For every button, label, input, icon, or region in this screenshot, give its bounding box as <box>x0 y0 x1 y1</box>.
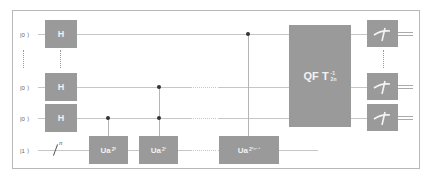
control-line-u2 <box>248 34 249 136</box>
control-dot-u1-b <box>157 116 161 120</box>
meter-icon <box>372 26 394 42</box>
u-gate-base-0: Ua <box>100 146 110 155</box>
qubit-label-1: |0 ⟩ <box>20 84 29 91</box>
vertical-ellipsis-gates <box>60 50 62 68</box>
measurement-gate-0 <box>367 20 398 47</box>
classical-wire-0 <box>398 32 413 36</box>
classical-wire-2 <box>398 116 413 120</box>
wire-ellipsis-2 <box>190 118 216 120</box>
control-dot-u1-a <box>157 85 161 89</box>
vertical-ellipsis-measure <box>383 50 385 68</box>
control-dot-u0 <box>106 116 110 120</box>
classical-wire-1 <box>398 85 413 89</box>
control-line-u1 <box>159 87 160 136</box>
qubit-label-2: |0 ⟩ <box>20 115 29 122</box>
measurement-gate-1 <box>367 73 398 100</box>
qft-sub: 2n <box>331 76 337 82</box>
control-line-u0 <box>108 118 109 136</box>
wire-ellipsis-3 <box>190 150 216 152</box>
controlled-u-gate-1: Ua2¹ <box>139 136 178 164</box>
control-dot-u2 <box>246 32 250 36</box>
hadamard-gate-1: H <box>45 73 77 101</box>
inverse-qft-gate: QF T -1 2n <box>289 25 351 127</box>
meter-icon <box>372 79 394 95</box>
vertical-ellipsis-labels <box>23 50 25 68</box>
u-gate-base-1: Ua <box>151 146 161 155</box>
u-gate-exp-0: 2⁰ <box>112 146 117 152</box>
wire-0b <box>218 34 289 35</box>
wire-0c <box>351 34 367 35</box>
quantum-circuit-diagram: |0 ⟩ |0 ⟩ |0 ⟩ |1 ⟩ n H H H Ua2⁰ Ua2¹ Ua… <box>0 0 432 177</box>
qubit-label-3: |1 ⟩ <box>20 147 29 154</box>
qft-exponent: -1 2n <box>331 70 337 82</box>
meter-icon <box>372 110 394 126</box>
controlled-u-gate-2: Ua2²ⁿ⁻¹ <box>219 136 279 164</box>
wire-ellipsis-1 <box>190 87 216 89</box>
wire-1b <box>218 87 289 88</box>
wire-1c <box>351 87 367 88</box>
u-gate-exp-2: 2²ⁿ⁻¹ <box>249 146 260 152</box>
u-gate-base-2: Ua <box>238 146 248 155</box>
controlled-u-gate-0: Ua2⁰ <box>89 136 128 164</box>
hadamard-gate-2: H <box>45 104 77 132</box>
u-gate-exp-1: 2¹ <box>162 146 166 152</box>
wire-2b <box>218 118 289 119</box>
qft-label: QF T <box>304 70 329 82</box>
register-size-label: n <box>59 140 62 146</box>
qubit-label-0: |0 ⟩ <box>20 31 29 38</box>
measurement-gate-2 <box>367 104 398 131</box>
wire-2c <box>351 118 367 119</box>
wire-ellipsis-0 <box>190 34 216 36</box>
hadamard-gate-0: H <box>45 20 77 48</box>
